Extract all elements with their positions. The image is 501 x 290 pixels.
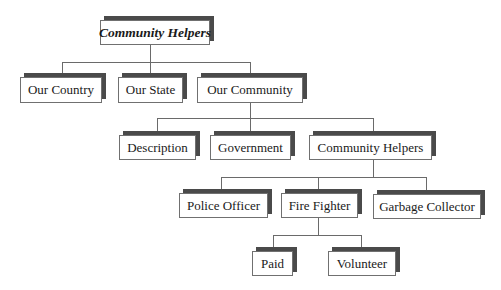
node-paid: Paid [252,251,293,276]
node-label: Description [119,135,196,160]
node-description: Description [119,135,196,160]
node-our-community: Our Community [197,77,303,103]
connector-level2-bar [157,118,374,119]
node-label: Police Officer [179,193,268,218]
connector-to-paid [273,235,274,247]
connector-our-community-stem [250,103,251,118]
connector-to-garbage-collector [426,177,427,190]
connector-root-stem [150,45,151,62]
node-label: Garbage Collector [373,194,481,219]
node-volunteer: Volunteer [328,251,396,276]
node-garbage-collector: Garbage Collector [373,194,481,219]
connector-to-our-state [150,62,151,73]
node-label: Paid [252,251,293,276]
node-label: Community Helpers [309,135,432,160]
connector-to-community-helpers-2 [373,118,374,132]
connector-to-our-country [62,62,63,73]
connector-level4-bar [273,235,362,236]
connector-level3-bar [221,177,427,178]
connector-to-volunteer [361,235,362,247]
node-label: Our Country [20,77,102,103]
node-label: Government [210,135,291,160]
node-label: Fire Fighter [281,193,358,218]
node-label: Community Helpers [100,20,210,45]
connector-to-description [157,118,158,132]
connector-fire-fighter-stem [318,218,319,235]
connector-to-government [250,118,251,132]
node-our-state: Our State [118,77,183,103]
connector-to-our-community [250,62,251,73]
node-label: Our Community [197,77,303,103]
node-police-officer: Police Officer [179,193,268,218]
node-our-country: Our Country [20,77,102,103]
node-fire-fighter: Fire Fighter [281,193,358,218]
node-label: Our State [118,77,183,103]
node-government: Government [210,135,291,160]
node-root-community-helpers: Community Helpers [100,20,210,45]
node-label: Volunteer [328,251,396,276]
connector-community-helpers-stem [373,160,374,177]
node-community-helpers-2: Community Helpers [309,135,432,160]
hierarchy-diagram: Community Helpers Our Country Our State … [0,0,501,290]
connector-level1-bar [62,62,251,63]
